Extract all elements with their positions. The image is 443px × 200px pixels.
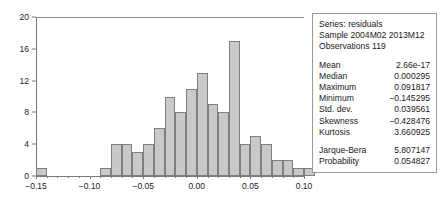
x-tick-mark-major bbox=[197, 176, 198, 179]
stat-value: 0.039561 bbox=[394, 104, 430, 115]
series-name-line: Series: residuals bbox=[319, 19, 430, 30]
histogram-bar bbox=[272, 160, 283, 176]
statistics-panel: Series: residuals Sample 2004M02 2013M12… bbox=[312, 13, 437, 173]
stat-label: Kurtosis bbox=[319, 127, 350, 138]
test-row: Probability0.054827 bbox=[319, 156, 430, 167]
x-tick-mark-minor bbox=[175, 176, 176, 178]
histogram-bar bbox=[122, 144, 133, 176]
stat-value: −0.428476 bbox=[389, 116, 430, 127]
histogram-bar bbox=[240, 144, 251, 176]
histogram-bar bbox=[100, 168, 111, 176]
stat-value: 0.000295 bbox=[394, 71, 430, 82]
histogram-statistics-figure: 048121620 −0.15−0.10−0.050.000.050.10 Se… bbox=[0, 0, 443, 200]
histogram-bar bbox=[218, 112, 229, 176]
observations-line: Observations 119 bbox=[319, 41, 430, 52]
x-tick-label: −0.10 bbox=[79, 182, 101, 191]
x-tick-label: 0.05 bbox=[242, 182, 259, 191]
y-tick-label: 12 bbox=[0, 76, 29, 85]
x-tick-mark-minor bbox=[165, 176, 166, 178]
stat-value: 3.660925 bbox=[394, 127, 430, 138]
stat-row: Mean2.66e-17 bbox=[319, 60, 430, 71]
x-tick-mark-minor bbox=[283, 176, 284, 178]
stat-row: Std. dev.0.039561 bbox=[319, 104, 430, 115]
stat-value: 5.807147 bbox=[394, 145, 430, 156]
stat-row: Kurtosis3.660925 bbox=[319, 127, 430, 138]
x-tick-mark-minor bbox=[272, 176, 273, 178]
histogram-bar bbox=[36, 168, 47, 176]
y-tick-label: 0 bbox=[0, 172, 29, 181]
x-tick-mark-minor bbox=[293, 176, 294, 178]
histogram-bar bbox=[111, 144, 122, 176]
x-tick-mark-minor bbox=[229, 176, 230, 178]
x-tick-label: −0.05 bbox=[132, 182, 154, 191]
x-tick-mark-minor bbox=[111, 176, 112, 178]
normality-test-rows: Jarque-Bera5.807147Probability0.054827 bbox=[319, 145, 430, 167]
histogram-bar bbox=[175, 112, 186, 176]
x-tick-mark-minor bbox=[132, 176, 133, 178]
sample-range-line: Sample 2004M02 2013M12 bbox=[319, 30, 430, 41]
x-tick-mark-major bbox=[36, 176, 37, 179]
stat-value: 0.054827 bbox=[394, 156, 430, 167]
x-tick-mark-minor bbox=[186, 176, 187, 178]
histogram-bar bbox=[143, 144, 154, 176]
histogram-bar bbox=[208, 104, 219, 176]
x-tick-mark-minor bbox=[218, 176, 219, 178]
histogram-bar bbox=[132, 152, 143, 176]
stat-label: Skewness bbox=[319, 116, 358, 127]
x-tick-mark-minor bbox=[240, 176, 241, 178]
stat-row: Skewness−0.428476 bbox=[319, 116, 430, 127]
stat-value: −0.145295 bbox=[389, 93, 430, 104]
stat-label: Jarque-Bera bbox=[319, 145, 366, 156]
histogram-bar bbox=[229, 41, 240, 176]
histogram-bar bbox=[154, 128, 165, 176]
histogram-bar bbox=[250, 136, 261, 176]
stat-row: Minimum−0.145295 bbox=[319, 93, 430, 104]
x-tick-label: 0.10 bbox=[296, 182, 313, 191]
x-tick-mark-major bbox=[304, 176, 305, 179]
stat-label: Median bbox=[319, 71, 347, 82]
stats-spacer-2 bbox=[319, 138, 430, 145]
x-tick-mark-major bbox=[143, 176, 144, 179]
stat-value: 2.66e-17 bbox=[396, 60, 430, 71]
histogram-bar bbox=[293, 168, 304, 176]
test-row: Jarque-Bera5.807147 bbox=[319, 145, 430, 156]
x-tick-mark-major bbox=[90, 176, 91, 179]
x-tick-mark-minor bbox=[47, 176, 48, 178]
stat-value: 0.091817 bbox=[394, 82, 430, 93]
y-tick-label: 8 bbox=[0, 108, 29, 117]
stat-label: Minimum bbox=[319, 93, 354, 104]
histogram-bars bbox=[36, 17, 304, 176]
x-tick-mark-minor bbox=[261, 176, 262, 178]
histogram-bar bbox=[283, 160, 294, 176]
x-tick-mark-minor bbox=[68, 176, 69, 178]
stat-label: Std. dev. bbox=[319, 104, 352, 115]
stat-label: Probability bbox=[319, 156, 359, 167]
x-tick-mark-minor bbox=[154, 176, 155, 178]
histogram-chart: 048121620 −0.15−0.10−0.050.000.050.10 bbox=[0, 0, 310, 200]
y-tick-label: 16 bbox=[0, 45, 29, 54]
stats-spacer-1 bbox=[319, 53, 430, 60]
y-tick-label: 4 bbox=[0, 140, 29, 149]
stat-label: Mean bbox=[319, 60, 341, 71]
histogram-bar bbox=[197, 73, 208, 176]
histogram-bar bbox=[186, 89, 197, 176]
stat-row: Maximum0.091817 bbox=[319, 82, 430, 93]
histogram-bar bbox=[261, 144, 272, 176]
x-tick-mark-minor bbox=[208, 176, 209, 178]
descriptive-stats-rows: Mean2.66e-17Median0.000295Maximum0.09181… bbox=[319, 60, 430, 138]
x-tick-mark-minor bbox=[79, 176, 80, 178]
x-tick-mark-minor bbox=[122, 176, 123, 178]
x-tick-mark-major bbox=[250, 176, 251, 179]
stat-row: Median0.000295 bbox=[319, 71, 430, 82]
stat-label: Maximum bbox=[319, 82, 356, 93]
x-axis-line bbox=[36, 176, 304, 177]
y-tick-label: 20 bbox=[0, 13, 29, 22]
x-tick-mark-minor bbox=[100, 176, 101, 178]
x-tick-label: 0.00 bbox=[189, 182, 206, 191]
x-tick-mark-minor bbox=[57, 176, 58, 178]
histogram-bar bbox=[165, 97, 176, 177]
x-tick-label: −0.15 bbox=[25, 182, 47, 191]
